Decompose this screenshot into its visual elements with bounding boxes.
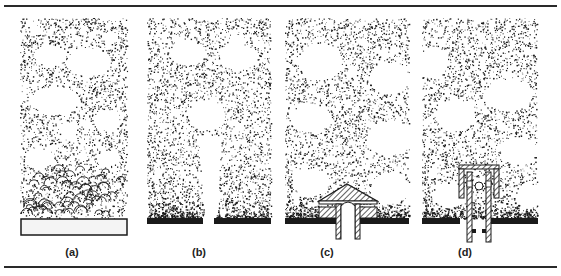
panel-d-distributor-nozzle-cap xyxy=(422,165,538,242)
panel-c-label: (c) xyxy=(307,246,347,258)
panel-b-label: (b) xyxy=(179,246,219,258)
panel-b-distributor-orifice-plate xyxy=(147,218,271,224)
panel-d-label: (d) xyxy=(445,246,485,258)
fluidized-bed-figure: (a) (b) (c) (d) xyxy=(0,0,561,276)
diagram-canvas xyxy=(0,0,561,276)
panel-a-distributor-porous-plate xyxy=(21,219,127,235)
panel-c-distributor-bubble-cap xyxy=(285,184,409,239)
panel-a-label: (a) xyxy=(52,246,92,258)
